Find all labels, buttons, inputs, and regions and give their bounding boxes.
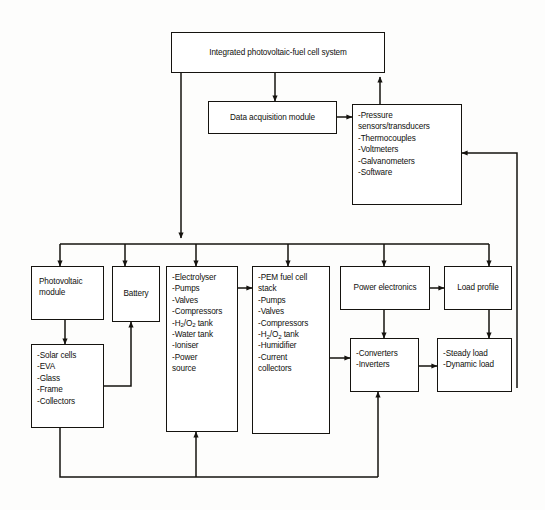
diagram-canvas: Integrated photovoltaic-fuel cell system… — [0, 0, 545, 510]
node-electrolyser[interactable]: -Electrolyser -Pumps -Valves -Compressor… — [166, 266, 238, 432]
node-loads[interactable]: -Steady load -Dynamic load — [437, 338, 512, 392]
node-pv-components[interactable]: -Solar cells -EVA -Glass -Frame -Collect… — [31, 344, 104, 428]
node-load-profile-label: Load profile — [453, 282, 503, 293]
electrolyser-item-pumps: -Pumps — [172, 283, 237, 294]
node-battery-label: Battery — [119, 288, 152, 299]
pem-item-pumps: -Pumps — [258, 295, 329, 306]
node-power-electronics[interactable]: Power electronics — [340, 266, 430, 310]
electrolyser-item-valves: -Valves — [172, 295, 237, 306]
instrument-item-sensors-transducers: sensors/transducers — [358, 121, 461, 132]
node-integrated-system-label: Integrated photovoltaic-fuel cell system — [205, 47, 351, 58]
instrument-item-pressure: -Pressure — [358, 110, 461, 121]
pv-component-frame: -Frame — [37, 384, 103, 395]
electrolyser-item-compressors: -Compressors — [172, 306, 237, 317]
instrument-item-software: -Software — [358, 167, 461, 178]
pem-item-compressors: -Compressors — [258, 318, 329, 329]
pv-component-solar-cells: -Solar cells — [37, 350, 103, 361]
node-data-acquisition-module-label: Data acquisition module — [226, 112, 319, 123]
instrument-item-truncated: …… — [358, 178, 461, 184]
instrument-item-voltmeters: -Voltmeters — [358, 144, 461, 155]
pem-item-valves: -Valves — [258, 306, 329, 317]
electrolyser-item-source: source — [172, 363, 237, 374]
node-photovoltaic-module-line-1: Photovoltaic — [39, 276, 103, 287]
pem-item-collectors: collectors — [258, 363, 329, 374]
pem-item-humidifier: -Humidifier — [258, 340, 329, 351]
converters-item-inverters: -Inverters — [356, 359, 418, 370]
pem-item-current: -Current — [258, 352, 329, 363]
node-instrumentation[interactable]: -Pressure sensors/transducers -Thermocou… — [352, 104, 462, 205]
node-data-acquisition-module[interactable]: Data acquisition module — [208, 101, 337, 134]
pem-item-h2-o2-tank: -H2/O2 tank — [258, 329, 329, 340]
node-photovoltaic-module-line-2: module — [39, 287, 103, 298]
edge-pvparts-to-battery — [104, 322, 131, 386]
electrolyser-item-h2-o2-tank: -H2/O2 tank — [172, 318, 237, 329]
loads-item-dynamic-load: -Dynamic load — [443, 359, 511, 370]
electrolyser-item-water-tank: -Water tank — [172, 329, 237, 340]
node-converters-inverters[interactable]: -Converters -Inverters — [350, 338, 419, 392]
pv-component-collectors: -Collectors — [37, 396, 103, 407]
electrolyser-item-electrolyser: -Electrolyser — [172, 272, 237, 283]
node-power-electronics-label: Power electronics — [350, 282, 421, 293]
node-load-profile[interactable]: Load profile — [444, 266, 512, 310]
instrument-item-thermocouples: -Thermocouples — [358, 133, 461, 144]
electrolyser-item-power: -Power — [172, 352, 237, 363]
pv-component-eva: -EVA — [37, 361, 103, 372]
bottom-bus — [60, 428, 378, 477]
instrument-item-galvanometers: -Galvanometers — [358, 156, 461, 167]
pem-item-stack-title-cont: stack — [258, 283, 329, 294]
node-pem-fuel-cell-stack[interactable]: -PEM fuel cell stack -Pumps -Valves -Com… — [252, 266, 330, 434]
pem-item-stack-title: -PEM fuel cell — [258, 272, 329, 283]
converters-item-converters: -Converters — [356, 348, 418, 359]
pv-component-glass: -Glass — [37, 373, 103, 384]
electrolyser-item-ioniser: -Ioniser — [172, 340, 237, 351]
node-battery[interactable]: Battery — [112, 266, 160, 322]
node-integrated-system[interactable]: Integrated photovoltaic-fuel cell system — [171, 32, 385, 73]
loads-item-steady-load: -Steady load — [443, 348, 511, 359]
node-photovoltaic-module[interactable]: Photovoltaic module — [31, 266, 104, 320]
